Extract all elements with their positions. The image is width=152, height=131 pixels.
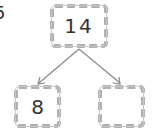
part-box-left: 8 <box>14 85 61 128</box>
whole-box: 14 <box>50 4 108 48</box>
part-box-right-empty[interactable] <box>98 85 145 128</box>
